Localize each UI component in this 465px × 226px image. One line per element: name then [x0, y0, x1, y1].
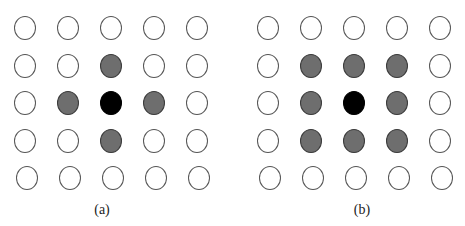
neighbor-pixel-dot: [300, 129, 322, 153]
pixel-dot: [257, 91, 279, 115]
pixel-dot: [186, 91, 208, 115]
panel-b-8-neighborhood: (b): [232, 0, 464, 226]
pixel-dot: [186, 54, 208, 78]
neighbor-pixel-dot: [343, 129, 365, 153]
panel-caption: (b): [342, 202, 382, 218]
center-pixel-dot: [100, 91, 122, 115]
neighbor-pixel-dot: [386, 54, 408, 78]
center-pixel-dot: [343, 91, 365, 115]
pixel-dot: [143, 129, 165, 153]
pixel-dot: [257, 129, 279, 153]
pixel-dot: [429, 91, 451, 115]
pixel-dot: [259, 166, 281, 190]
pixel-dot: [14, 129, 36, 153]
neighbor-pixel-dot: [386, 91, 408, 115]
pixel-dot: [145, 166, 167, 190]
pixel-dot: [257, 16, 279, 40]
panel-a-4-neighborhood: (a): [0, 0, 232, 226]
panel-caption: (a): [82, 202, 122, 218]
pixel-dot: [16, 166, 38, 190]
neighbor-pixel-dot: [300, 54, 322, 78]
pixel-dot: [188, 166, 210, 190]
pixel-dot: [143, 16, 165, 40]
neighbor-pixel-dot: [100, 54, 122, 78]
pixel-dot: [57, 129, 79, 153]
pixel-dot: [345, 166, 367, 190]
pixel-dot: [14, 54, 36, 78]
neighbor-pixel-dot: [300, 91, 322, 115]
pixel-dot: [100, 16, 122, 40]
pixel-dot: [429, 16, 451, 40]
pixel-dot: [257, 54, 279, 78]
pixel-dot: [57, 16, 79, 40]
neighbor-pixel-dot: [100, 129, 122, 153]
pixel-dot: [14, 91, 36, 115]
pixel-dot: [102, 166, 124, 190]
pixel-dot: [59, 166, 81, 190]
pixel-dot: [386, 16, 408, 40]
pixel-dot: [429, 129, 451, 153]
pixel-dot: [429, 54, 451, 78]
pixel-dot: [343, 16, 365, 40]
neighbor-pixel-dot: [143, 91, 165, 115]
pixel-dot: [300, 16, 322, 40]
pixel-dot: [388, 166, 410, 190]
pixel-dot: [186, 129, 208, 153]
neighbor-pixel-dot: [343, 54, 365, 78]
neighbor-pixel-dot: [57, 91, 79, 115]
pixel-dot: [57, 54, 79, 78]
pixel-dot: [302, 166, 324, 190]
pixel-dot: [186, 16, 208, 40]
pixel-dot: [14, 16, 36, 40]
pixel-dot: [431, 166, 453, 190]
pixel-dot: [143, 54, 165, 78]
neighbor-pixel-dot: [386, 129, 408, 153]
